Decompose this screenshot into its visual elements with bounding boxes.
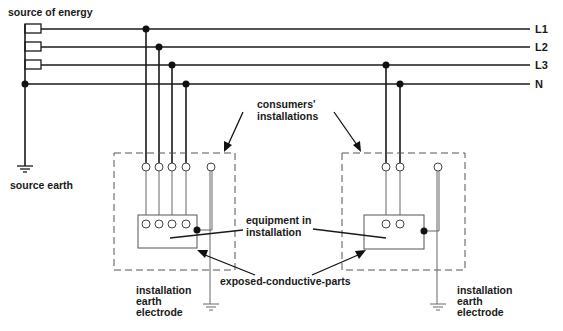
junction-dot (156, 44, 163, 51)
junction-dot (143, 26, 150, 33)
source-earth-label: source earth (10, 179, 73, 191)
source-windings (25, 24, 41, 84)
winding-l3-icon (25, 60, 41, 69)
conductor-l1-label: L1 (535, 23, 548, 35)
right-consumer-installation (342, 153, 465, 310)
winding-l1-icon (25, 24, 41, 33)
terminal-icon (155, 220, 163, 228)
arrow-icon (312, 250, 366, 275)
exposed-part-dot (421, 228, 428, 235)
earth-terminal-icon (434, 163, 442, 171)
junction-dot (169, 62, 176, 69)
winding-l2-icon (25, 42, 41, 51)
source-of-energy-label: source of energy (8, 6, 93, 18)
consumers-installations-label-line1: consumers' (257, 98, 316, 110)
equipment-label-line1: equipment in (246, 214, 311, 226)
terminal-icon (396, 163, 404, 171)
earthing-system-diagram: source of energy L1 L2 L3 N source earth (0, 0, 563, 331)
source-earth (17, 81, 33, 173)
terminal-icon (182, 220, 190, 228)
conductor-n-label: N (535, 78, 543, 90)
terminal-icon (142, 220, 150, 228)
earth-ground-icon (203, 304, 219, 310)
junction-dot (383, 62, 390, 69)
terminal-icon (168, 163, 176, 171)
arrow-icon (197, 250, 255, 275)
terminal-icon (155, 163, 163, 171)
junction-dot (397, 81, 404, 88)
earth-ground-icon (430, 304, 446, 310)
equipment-box (364, 215, 424, 249)
earth-ground-icon (17, 166, 33, 172)
equipment-label-line2: installation (246, 226, 301, 238)
earth-terminal-icon (207, 163, 215, 171)
conductor-l3-label: L3 (535, 59, 548, 71)
left-installation-feeds (143, 26, 190, 164)
arrow-icon (224, 112, 243, 152)
terminal-icon (382, 163, 390, 171)
terminal-icon (182, 163, 190, 171)
exposed-conductive-parts-label: exposed-conductive-parts (220, 275, 351, 287)
terminal-icon (382, 220, 390, 228)
arrow-icon (334, 112, 361, 152)
terminal-icon (168, 220, 176, 228)
right-electrode-label-line3: electrode (457, 306, 504, 318)
exposed-part-dot (194, 227, 201, 234)
terminal-icon (396, 220, 404, 228)
terminal-icon (142, 163, 150, 171)
bus-lines (25, 29, 530, 84)
left-electrode-label-line3: electrode (136, 306, 183, 318)
consumers-installations-label-line2: installations (257, 110, 318, 122)
conductor-l2-label: L2 (535, 41, 548, 53)
right-installation-feeds (383, 62, 404, 164)
junction-dot (183, 81, 190, 88)
